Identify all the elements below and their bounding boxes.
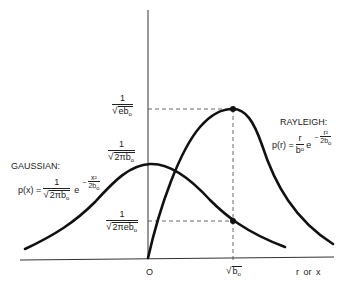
origin-label: O (146, 268, 153, 277)
formula-exponent: − r² 2bo (314, 129, 331, 146)
x-tick-sqrt-b0: √bo (226, 266, 242, 277)
gaussian-curve (25, 164, 285, 249)
formula-base: e (74, 185, 79, 195)
fraction-denominator: √2πbo (108, 151, 135, 163)
x-axis (20, 257, 334, 260)
rayleigh-peak-marker (230, 106, 236, 112)
gaussian-marker (230, 218, 236, 224)
gaussian-title: GAUSSIAN: (11, 162, 60, 171)
formula-exponent: − x² 2bo (82, 174, 99, 191)
formula-coefficient: 1 √2πbo (43, 178, 70, 201)
rayleigh-peak-value-label: 1 √ebo (112, 94, 133, 117)
rayleigh-curve (148, 109, 333, 258)
gaussian-marker-value-label: 1 √2πebo (106, 210, 138, 233)
fraction-denominator: √ebo (112, 105, 133, 117)
fraction-numerator: 1 (118, 94, 127, 104)
gaussian-formula: p(x) = 1 √2πbo e − x² 2bo (18, 178, 100, 201)
formula-base: e (306, 140, 311, 150)
sqrt-symbol: √2πebo (106, 222, 138, 233)
gaussian-peak-value-label: 1 √2πbo (108, 140, 135, 163)
fraction-numerator: 1 (118, 210, 127, 220)
formula-coefficient: r bo (296, 134, 304, 155)
fraction-denominator: √2πebo (106, 221, 138, 233)
formula-lhs: p(r) = (272, 140, 294, 150)
sqrt-symbol: √2πbo (108, 152, 135, 163)
rayleigh-title: RAYLEIGH: (280, 118, 327, 127)
formula-lhs: p(x) = (18, 185, 41, 195)
fraction-numerator: 1 (117, 140, 126, 150)
x-axis-label: r or x (296, 268, 321, 277)
rayleigh-formula: p(r) = r bo e − r² 2bo (272, 134, 331, 155)
sqrt-symbol: √ebo (112, 106, 133, 117)
